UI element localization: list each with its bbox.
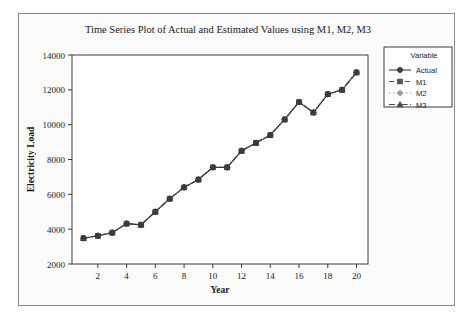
data-point-circle	[210, 165, 215, 170]
x-tick-label: 4	[124, 271, 129, 281]
y-tick-label: 14000	[43, 51, 66, 61]
data-point-circle	[81, 236, 86, 241]
x-tick-label: 6	[153, 271, 158, 281]
x-tick-label: 10	[208, 271, 218, 281]
y-tick-label: 4000	[47, 225, 66, 235]
y-tick-label: 6000	[47, 190, 66, 200]
data-point-circle	[268, 133, 273, 138]
x-tick-label: 12	[237, 271, 246, 281]
data-point-circle	[239, 148, 244, 153]
data-point-circle	[311, 110, 316, 115]
x-tick-label: 8	[182, 271, 187, 281]
legend-label-m2: M2	[416, 89, 426, 98]
data-point-circle	[181, 185, 186, 190]
data-point-circle	[282, 117, 287, 122]
time-series-chart: Time Series Plot of Actual and Estimated…	[0, 0, 475, 326]
x-tick-label: 14	[266, 271, 276, 281]
data-point-circle	[325, 92, 330, 97]
legend-title: Variable	[411, 51, 438, 60]
data-point-circle	[167, 196, 172, 201]
data-point-square	[398, 79, 403, 84]
x-axis-label: Year	[211, 285, 231, 295]
data-point-circle	[110, 230, 115, 235]
x-tick-label: 18	[323, 271, 333, 281]
data-point-circle	[354, 70, 359, 75]
y-tick-label: 2000	[47, 260, 66, 270]
data-point-circle	[153, 209, 158, 214]
data-point-circle	[340, 87, 345, 92]
data-point-circle	[196, 177, 201, 182]
chart-page: Time Series Plot of Actual and Estimated…	[0, 0, 475, 326]
data-point-circle	[296, 99, 301, 104]
y-tick-label: 12000	[43, 85, 66, 95]
data-point-circle	[253, 140, 258, 145]
legend: VariableActualM1M2M3	[384, 47, 452, 110]
legend-label-m1: M1	[416, 78, 426, 87]
x-tick-label: 20	[352, 271, 362, 281]
y-tick-label: 10000	[43, 120, 66, 130]
data-point-circle	[225, 165, 230, 170]
data-point-circle	[95, 233, 100, 238]
chart-title: Time Series Plot of Actual and Estimated…	[85, 24, 371, 35]
x-tick-label: 16	[295, 271, 305, 281]
plot-area	[72, 55, 368, 264]
y-axis-label: Electricity Load	[26, 126, 36, 192]
data-point-circle	[124, 221, 129, 226]
data-point-circle	[397, 67, 402, 72]
legend-label-actual: Actual	[416, 66, 437, 75]
y-tick-label: 8000	[47, 155, 66, 165]
data-point-circle	[138, 222, 143, 227]
x-tick-label: 2	[96, 271, 101, 281]
legend-label-m3: M3	[416, 101, 426, 110]
